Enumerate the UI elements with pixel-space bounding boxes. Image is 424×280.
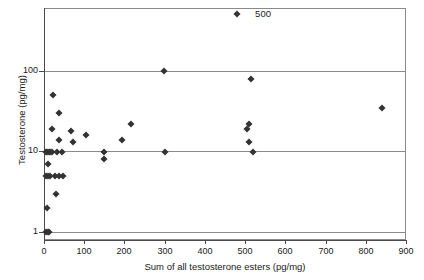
x-tick-label-400: 400	[185, 246, 225, 257]
x-tick-label-600: 600	[265, 246, 305, 257]
x-tick-label-100: 100	[64, 246, 104, 257]
x-tick-600	[285, 240, 286, 244]
x-tick-300	[165, 240, 166, 244]
x-axis-line	[44, 240, 406, 241]
gridline-y-1	[44, 232, 406, 233]
data-label-500: 500	[255, 8, 271, 19]
x-tick-500	[245, 240, 246, 244]
x-tick-200	[124, 240, 125, 244]
gridline-y-10	[44, 151, 406, 152]
y-axis-title: Testosterone (pg/mg)	[16, 40, 28, 200]
x-tick-label-0: 0	[24, 246, 64, 257]
y-tick-100	[39, 71, 44, 72]
x-axis-title: Sum of all testosterone esters (pg/mg)	[44, 261, 406, 273]
x-tick-label-700: 700	[306, 246, 346, 257]
y-tick-label-1: 1	[8, 226, 38, 237]
x-tick-label-200: 200	[104, 246, 144, 257]
x-tick-800	[366, 240, 367, 244]
x-tick-label-900: 900	[386, 246, 424, 257]
x-tick-400	[205, 240, 206, 244]
scatter-chart: 0100200300400500600700800900110100500 Su…	[0, 0, 424, 280]
plot-frame	[44, 8, 406, 240]
x-tick-700	[326, 240, 327, 244]
x-tick-900	[406, 240, 407, 244]
x-tick-0	[44, 240, 45, 244]
x-tick-label-800: 800	[346, 246, 386, 257]
x-tick-label-500: 500	[225, 246, 265, 257]
x-tick-label-300: 300	[145, 246, 185, 257]
x-tick-100	[84, 240, 85, 244]
gridline-y-100	[44, 71, 406, 72]
